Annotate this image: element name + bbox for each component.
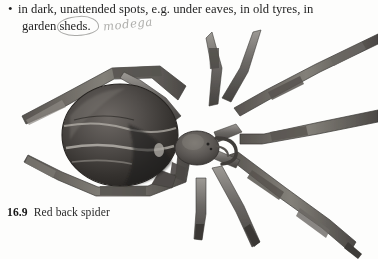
figure-caption-text: Red back spider xyxy=(34,206,110,219)
body-text-line-1: in dark, unattended spots, e.g. under ea… xyxy=(18,1,313,17)
spider-abdomen xyxy=(62,84,178,186)
figure-number: 16.9 xyxy=(7,206,28,219)
body-text-line-2: garden sheds. xyxy=(22,18,91,34)
bullet-point-icon: • xyxy=(8,1,18,17)
body-text-block: • in dark, unattended spots, e.g. under … xyxy=(0,0,378,42)
figure-caption: 16.9 Red back spider xyxy=(7,206,110,219)
spider-illustration xyxy=(0,28,378,259)
scanned-textbook-page: • in dark, unattended spots, e.g. under … xyxy=(0,0,378,259)
bullet-list-item: • in dark, unattended spots, e.g. under … xyxy=(8,1,374,17)
spider-photograph xyxy=(0,28,378,259)
